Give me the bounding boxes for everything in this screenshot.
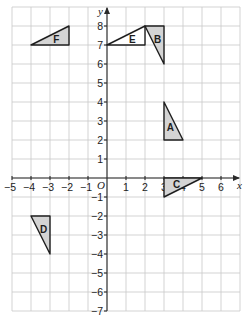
y-tick-label: −3: [91, 229, 103, 241]
y-tick-label: 3: [97, 115, 103, 127]
y-tick-label: 1: [97, 153, 103, 165]
grid-lines: [12, 7, 240, 311]
y-tick-label: −1: [91, 191, 103, 203]
x-tick-label: −3: [42, 181, 54, 193]
x-tick-label: 5: [199, 181, 205, 193]
coordinate-grid: −5−4−3−2−112345687654321−1−2−3−4−5−6−7Ox…: [0, 0, 247, 326]
y-tick-label: 4: [97, 96, 103, 108]
triangle-label: F: [53, 34, 59, 45]
tick-labels: −5−4−3−2−112345687654321−1−2−3−4−5−6−7Ox…: [4, 5, 242, 317]
triangle-label: B: [154, 34, 161, 45]
x-tick-label: −5: [4, 181, 16, 193]
y-tick-label: −6: [91, 286, 103, 298]
x-tick-label: 6: [218, 181, 224, 193]
origin-label: O: [97, 179, 105, 191]
y-tick-label: −5: [91, 267, 103, 279]
y-tick-label: 8: [97, 20, 103, 32]
y-tick-label: 7: [97, 39, 103, 51]
triangle-label: A: [167, 122, 174, 133]
x-axis-label: x: [236, 179, 242, 191]
x-tick-label: 2: [142, 181, 148, 193]
x-tick-label: −2: [61, 181, 73, 193]
y-tick-label: 2: [97, 134, 103, 146]
y-tick-label: −4: [91, 248, 103, 260]
y-axis-arrow-icon: [104, 7, 110, 14]
y-axis-label: y: [97, 5, 103, 17]
triangle-label: E: [129, 34, 136, 45]
x-tick-label: −4: [23, 181, 35, 193]
y-tick-label: −7: [91, 305, 103, 317]
y-tick-label: −2: [91, 210, 103, 222]
x-tick-label: 1: [123, 181, 129, 193]
triangle-label: D: [40, 224, 47, 235]
y-tick-label: 5: [97, 77, 103, 89]
y-tick-label: 6: [97, 58, 103, 70]
triangle-label: C: [173, 179, 180, 190]
